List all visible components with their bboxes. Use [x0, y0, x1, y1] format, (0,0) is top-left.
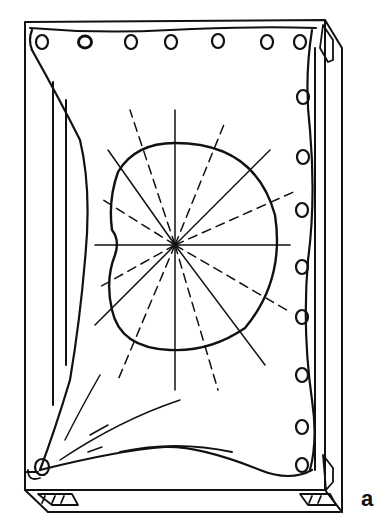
membrane-sheet: [28, 30, 315, 479]
frame: [25, 20, 342, 512]
grommet-holes: [35, 34, 309, 475]
oval-outline: [109, 143, 277, 350]
membrane-frame-diagram: [0, 0, 381, 522]
corner-brackets: [38, 25, 336, 505]
panel-label: a: [361, 488, 373, 510]
